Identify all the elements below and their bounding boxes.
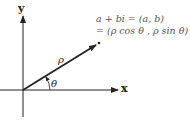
theta-label: θ xyxy=(51,78,57,89)
y-axis-label: y xyxy=(18,2,24,15)
polar-complex-diagram: y x ρ θ a + bi = (a, b) = (ρ cos θ , ρ s… xyxy=(0,0,190,122)
vector-endpoint xyxy=(98,42,101,45)
formula-line-1: a + bi = (a, b) xyxy=(96,13,164,24)
rho-label: ρ xyxy=(58,54,64,65)
x-axis-label: x xyxy=(121,82,128,95)
formula-line-2: = (ρ cos θ , ρ sin θ) xyxy=(96,25,188,36)
angle-arc xyxy=(46,77,50,90)
vector-rho xyxy=(23,45,96,90)
